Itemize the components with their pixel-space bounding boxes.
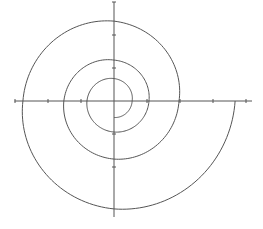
- spiral-curve: [22, 21, 235, 209]
- spiral-chart: [0, 0, 263, 229]
- axes: [15, 2, 253, 217]
